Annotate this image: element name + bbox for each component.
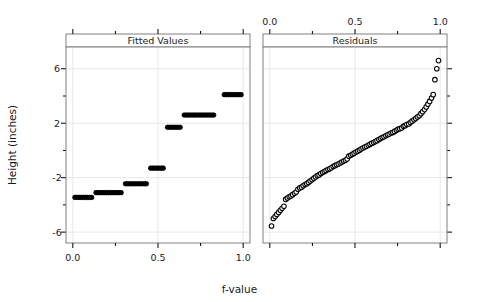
data-point — [119, 190, 124, 195]
strip-fitted: Fitted Values — [66, 34, 250, 47]
panel-residuals: Residuals0.00.51.0 — [262, 16, 447, 243]
data-point — [436, 58, 441, 63]
y-axis-right — [447, 69, 452, 232]
y-axis-label: Height (inches) — [6, 105, 18, 185]
plot-canvas: Height (inches)62-2-6Fitted Values0.00.5… — [0, 0, 479, 302]
y-tick-label: 6 — [54, 63, 60, 74]
y-tick-label: -6 — [52, 227, 61, 238]
rfs-plot-figure: Height (inches)62-2-6Fitted Values0.00.5… — [0, 0, 479, 302]
y-axis: 62-2-6 — [52, 63, 66, 237]
strip-label: Residuals — [332, 35, 377, 46]
x-tick-label: 0.5 — [150, 252, 165, 263]
strip-residuals: Residuals — [263, 34, 447, 47]
x-tick-label: 1.0 — [236, 252, 251, 263]
data-point — [282, 204, 287, 209]
panel-fitted: Fitted Values0.00.51.0 — [65, 34, 250, 263]
data-point — [239, 92, 244, 97]
data-point — [434, 66, 439, 71]
y-tick-label: 2 — [54, 118, 60, 129]
data-point — [431, 92, 436, 97]
data-point — [211, 113, 216, 118]
data-point — [144, 181, 149, 186]
y-axis-label-text: Height (inches) — [6, 105, 18, 185]
data-point — [433, 77, 438, 82]
x-tick-label: 0.0 — [262, 16, 277, 27]
x-axis-residuals: 0.00.51.0 — [262, 16, 447, 34]
x-axis-label-text: f-value — [222, 283, 257, 295]
x-tick-label: 0.0 — [65, 252, 80, 263]
data-point — [89, 195, 94, 200]
y-tick-label: -2 — [52, 172, 61, 183]
data-point — [269, 224, 274, 229]
x-tick-label: 1.0 — [433, 16, 448, 27]
data-point — [178, 125, 183, 130]
data-point — [161, 166, 166, 171]
x-axis-label: f-value — [222, 283, 257, 295]
x-axis-fitted: 0.00.51.0 — [65, 243, 250, 263]
strip-label: Fitted Values — [128, 35, 189, 46]
x-tick-label: 0.5 — [347, 16, 362, 27]
